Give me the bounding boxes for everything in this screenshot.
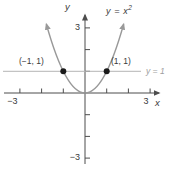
plotted-point — [60, 68, 66, 74]
x-axis-label: x — [155, 98, 160, 108]
point-label-right: (1, 1) — [111, 56, 131, 66]
reference-line-label: y = 1 — [146, 66, 165, 76]
plotted-point — [104, 68, 110, 74]
y-tick-label-3: 3 — [64, 22, 80, 32]
curve-equation-label: y = x2 — [106, 3, 132, 16]
curve-equation-base: y = x — [106, 6, 128, 16]
graph-canvas — [0, 0, 173, 173]
y-axis-label: y — [65, 2, 70, 12]
x-tick-label-neg3: −3 — [4, 96, 21, 106]
point-label-left: (−1, 1) — [19, 56, 44, 66]
function-graph-figure: y = x2 y x 3 −3 −3 3 (−1, 1) (1, 1) y = … — [0, 0, 173, 173]
x-tick-label-3: 3 — [139, 96, 153, 106]
curve-equation-exponent: 2 — [128, 4, 132, 11]
y-tick-label-neg3: −3 — [58, 152, 80, 162]
